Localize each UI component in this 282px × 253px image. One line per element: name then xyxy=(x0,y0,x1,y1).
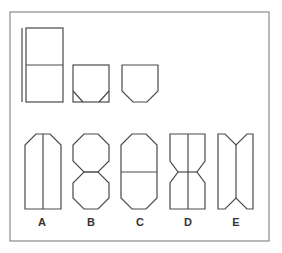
option-d-label: D xyxy=(184,216,192,228)
figure-frame xyxy=(10,12,269,241)
option-b-label: B xyxy=(87,216,95,228)
option-a-shape[interactable] xyxy=(25,134,61,209)
option-e-shape[interactable] xyxy=(218,134,253,209)
stimulus-sheet xyxy=(22,28,63,102)
stimulus-folded xyxy=(73,65,109,102)
option-c-label: C xyxy=(136,216,144,228)
option-e-label: E xyxy=(232,216,239,228)
option-a-label: A xyxy=(38,216,46,228)
option-b-shape[interactable] xyxy=(73,134,109,209)
puzzle-figure: A B C D E xyxy=(0,0,282,253)
option-c-shape[interactable] xyxy=(121,134,157,209)
stimulus-cut xyxy=(122,65,158,102)
option-d-shape[interactable] xyxy=(170,134,205,209)
